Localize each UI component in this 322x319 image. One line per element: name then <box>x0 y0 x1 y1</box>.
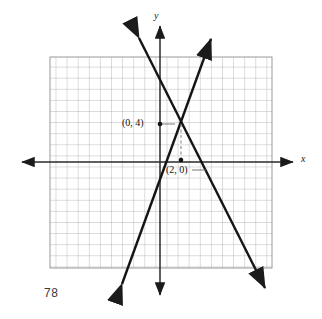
y-axis-label: y <box>154 10 158 21</box>
y-intercept-label: (0, 4) <box>122 117 144 128</box>
coordinate-plane-svg <box>0 0 322 319</box>
x-axis-label: x <box>301 153 305 164</box>
point-marker-0-4 <box>158 122 163 127</box>
x-intercept-label: (2, 0) <box>166 164 188 175</box>
point-marker-2-0 <box>179 158 184 163</box>
page-number: 78 <box>44 286 58 300</box>
graph-figure: y x (0, 4) (2, 0) 78 <box>0 0 322 319</box>
